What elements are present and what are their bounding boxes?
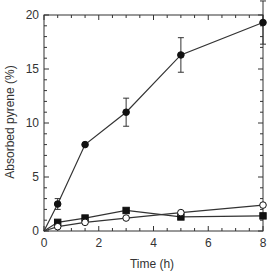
x-axis-title: Time (h) (130, 257, 174, 271)
y-axis-title: Absorbed pyrene (%) (3, 65, 17, 178)
x-tick-label: 2 (95, 236, 102, 250)
y-tick-label: 5 (32, 170, 39, 184)
plot-frame (44, 15, 263, 231)
marker-open-circle (82, 219, 89, 226)
marker-open-circle (260, 202, 267, 209)
x-tick-label: 8 (260, 236, 267, 250)
axis-tick-labels: 0246805101520 (26, 8, 267, 250)
y-tick-label: 0 (32, 224, 39, 238)
series-line (44, 23, 263, 231)
marker-filled-circle (54, 201, 61, 208)
marker-filled-circle (123, 109, 130, 116)
marker-filled-square (260, 213, 266, 219)
line-chart: 0246805101520 Time (h) Absorbed pyrene (… (0, 0, 275, 274)
series-filled-circle (44, 1, 266, 231)
series-filled-square (44, 207, 266, 231)
marker-filled-circle (260, 19, 267, 26)
y-tick-label: 15 (26, 62, 40, 76)
x-tick-label: 6 (205, 236, 212, 250)
marker-filled-circle (178, 52, 185, 59)
data-series (44, 1, 266, 231)
x-tick-label: 4 (150, 236, 157, 250)
axis-ticks (44, 15, 263, 231)
y-tick-label: 20 (26, 8, 40, 22)
x-tick-label: 0 (41, 236, 48, 250)
y-tick-label: 10 (26, 116, 40, 130)
marker-filled-circle (82, 141, 89, 148)
marker-open-circle (123, 215, 130, 222)
marker-open-circle (178, 209, 185, 216)
marker-filled-square (123, 207, 129, 213)
marker-open-circle (54, 223, 61, 230)
plot-border (44, 15, 263, 231)
